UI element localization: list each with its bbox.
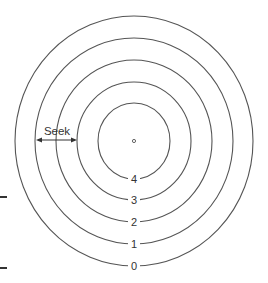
track-label-0: 0 <box>131 260 137 272</box>
track-label-4: 4 <box>131 173 137 185</box>
arrow-right-icon <box>71 138 77 143</box>
disk-tracks-diagram: 4 3 2 1 0 Seek <box>0 0 268 283</box>
seek-label: Seek <box>44 125 70 137</box>
track-label-1: 1 <box>131 238 137 250</box>
track-ring-1 <box>35 38 233 244</box>
track-label-3: 3 <box>131 194 137 206</box>
track-ring-0 <box>15 16 253 266</box>
edge-dash-bottom <box>0 267 7 269</box>
edge-dash-top <box>0 196 7 198</box>
spindle-center-icon <box>132 139 135 142</box>
arrow-left-icon <box>36 138 42 143</box>
track-ring-4 <box>98 103 170 179</box>
track-label-2: 2 <box>131 216 137 228</box>
